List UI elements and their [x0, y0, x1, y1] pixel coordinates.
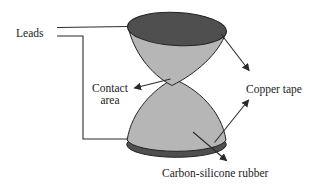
contact-area-label-line1: Contact — [92, 82, 129, 94]
bottom-rubber-cone — [127, 79, 226, 151]
copper-tape-upper-arrow — [221, 34, 249, 71]
diagram-canvas: Leads Contact area Copper tape Carbon-si… — [0, 0, 316, 185]
hourglass-sensor-diagram: Leads Contact area Copper tape Carbon-si… — [0, 0, 316, 185]
leads-label: Leads — [16, 27, 44, 39]
contact-area-label-line2: area — [100, 94, 119, 106]
copper-tape-label: Copper tape — [246, 83, 302, 96]
carbon-silicone-rubber-label: Carbon-silicone rubber — [162, 167, 269, 179]
leads-wire-upper — [57, 27, 130, 28]
